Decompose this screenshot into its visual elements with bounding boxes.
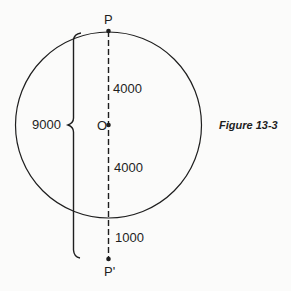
figure-caption: Figure 13-3: [219, 119, 278, 131]
label-upper-4000: 4000: [113, 81, 142, 96]
label-o: O: [97, 118, 107, 133]
diagram-canvas: P O P' 4000 4000 1000 9000 Figure 13-3: [0, 0, 291, 291]
label-lower-4000: 4000: [114, 160, 143, 175]
label-9000: 9000: [32, 117, 61, 132]
brace: [68, 33, 81, 258]
label-1000: 1000: [115, 230, 144, 245]
label-p: P: [104, 12, 113, 27]
point-p: [106, 29, 111, 34]
label-p-prime: P': [104, 264, 115, 279]
point-p-prime: [106, 257, 111, 262]
